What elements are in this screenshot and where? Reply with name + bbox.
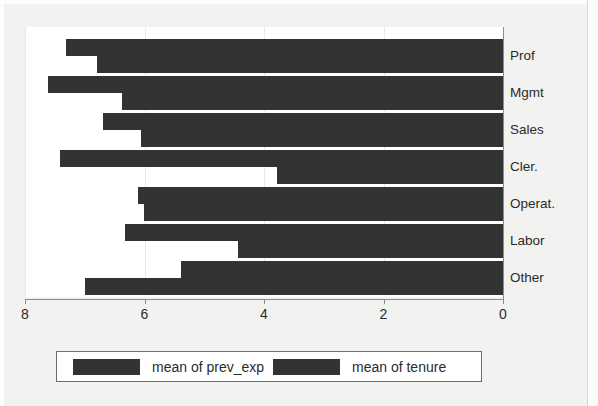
bar — [238, 241, 503, 258]
category-label-cler: Cler. — [510, 159, 538, 174]
chart-figure: 86420 ProfMgmtSalesCler.Operat.LaborOthe… — [0, 0, 598, 406]
bars-layer — [25, 27, 503, 297]
category-label-sales: Sales — [510, 122, 544, 137]
legend-item-tenure: mean of tenure — [273, 352, 446, 381]
x-tick-4 — [264, 299, 265, 304]
scan-edge-top — [0, 0, 598, 4]
scan-edge-left — [0, 0, 4, 406]
bar — [122, 93, 503, 110]
bar-group — [25, 150, 503, 184]
bar — [103, 113, 503, 130]
x-tick-label: 4 — [249, 306, 279, 322]
bar-group — [25, 76, 503, 110]
category-label-labor: Labor — [510, 233, 545, 248]
category-label-mgmt: Mgmt — [510, 85, 544, 100]
bar-group — [25, 224, 503, 258]
bar — [97, 56, 503, 73]
bar-group — [25, 187, 503, 221]
legend-swatch-tenure — [273, 359, 340, 375]
bar — [60, 150, 503, 167]
category-label-other: Other — [510, 270, 544, 285]
x-tick-label: 2 — [369, 306, 399, 322]
x-tick-label: 8 — [10, 306, 40, 322]
x-tick-2 — [384, 299, 385, 304]
category-label-operat: Operat. — [510, 196, 555, 211]
x-tick-0 — [503, 299, 504, 304]
bar — [85, 278, 503, 295]
x-tick-6 — [145, 299, 146, 304]
legend-label-tenure: mean of tenure — [352, 359, 446, 375]
legend-swatch-prev-exp — [73, 359, 140, 375]
bar — [66, 39, 503, 56]
category-label-prof: Prof — [510, 48, 535, 63]
bar — [125, 224, 503, 241]
bar — [141, 130, 503, 147]
bar — [277, 167, 503, 184]
bar — [181, 261, 503, 278]
scan-rule-right — [587, 0, 588, 406]
y-axis-line — [503, 27, 504, 299]
bar-group — [25, 261, 503, 295]
scan-edge-right — [587, 0, 598, 406]
bar-group — [25, 113, 503, 147]
x-tick-label: 0 — [488, 306, 518, 322]
legend-item-prev-exp: mean of prev_exp — [73, 352, 264, 381]
plot-area — [25, 27, 503, 297]
bar — [144, 204, 503, 221]
legend-label-prev-exp: mean of prev_exp — [152, 359, 264, 375]
legend: mean of prev_exp mean of tenure — [56, 351, 482, 382]
x-tick-label: 6 — [130, 306, 160, 322]
bar — [48, 76, 503, 93]
bar — [138, 187, 503, 204]
bar-group — [25, 39, 503, 73]
x-tick-8 — [25, 299, 26, 304]
